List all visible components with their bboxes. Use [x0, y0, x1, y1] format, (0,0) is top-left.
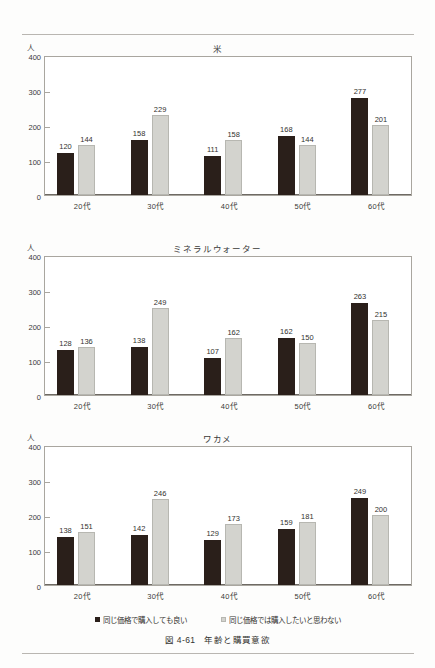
bar-value-label: 142 [133, 524, 146, 533]
x-category-label: 50代 [266, 400, 340, 411]
bar-value-label: 229 [154, 105, 167, 114]
bar-value-label: 246 [154, 489, 167, 498]
y-tick-label: 100 [28, 358, 41, 367]
bar-series-light: 151 [78, 532, 95, 585]
x-category-label: 50代 [266, 200, 340, 211]
bar-series-dark: 142 [131, 535, 148, 585]
bar-value-label: 215 [375, 310, 388, 319]
legend-label-1: 同じ価格では購入したいと思わない [229, 614, 341, 625]
chart-title: ワカメ [0, 432, 435, 444]
bar-group: 11115840代 [192, 57, 266, 195]
x-category-label: 30代 [119, 200, 193, 211]
bar-value-label: 151 [80, 522, 93, 531]
bar-series-dark: 128 [57, 350, 74, 395]
bar-group: 16215050代 [266, 257, 340, 395]
y-tick-label: 200 [28, 323, 41, 332]
bar-value-label: 200 [375, 505, 388, 514]
bar-value-label: 128 [59, 339, 72, 348]
bar-series-dark: 138 [57, 537, 74, 585]
bar-value-label: 249 [354, 487, 367, 496]
y-tick-label: 300 [28, 288, 41, 297]
bar-group: 14224630代 [119, 447, 193, 585]
plot-area: 010020030040012014420代15822930代11115840代… [44, 56, 412, 196]
x-category-label: 40代 [192, 200, 266, 211]
bar-value-label: 111 [207, 145, 218, 154]
plot-area: 010020030040013815120代14224630代12917340代… [44, 446, 412, 586]
figure-caption-number: 図 4-61 [165, 635, 196, 645]
bar-group: 10716240代 [192, 257, 266, 395]
bar-value-label: 201 [375, 115, 388, 124]
bar-series-dark: 277 [351, 98, 368, 195]
bar-series-light: 249 [152, 308, 169, 395]
bars-layer: 12014420代15822930代11115840代16814450代2772… [45, 57, 411, 195]
y-tick-label: 0 [37, 193, 41, 202]
bar-series-dark: 159 [278, 529, 295, 585]
bar-value-label: 158 [227, 130, 240, 139]
y-tick-label: 100 [28, 158, 41, 167]
bar-group: 16814450代 [266, 57, 340, 195]
x-category-label: 20代 [45, 200, 119, 211]
bar-series-dark: 111 [204, 156, 221, 195]
bar-series-light: 173 [225, 524, 242, 585]
y-tick-label: 0 [37, 583, 41, 592]
bar-group: 26321560代 [339, 257, 413, 395]
bar-series-light: 162 [225, 338, 242, 395]
y-tick-label: 0 [37, 393, 41, 402]
x-category-label: 30代 [119, 400, 193, 411]
bar-group: 12917340代 [192, 447, 266, 585]
bar-series-dark: 120 [57, 153, 74, 195]
legend-item-1: 同じ価格では購入したいと思わない [221, 614, 341, 625]
bar-series-light: 181 [299, 522, 316, 585]
bar-group: 15918150代 [266, 447, 340, 585]
bar-value-label: 138 [59, 526, 72, 535]
bar-value-label: 162 [280, 327, 293, 336]
figure-caption-title: 年齢と購買意欲 [204, 635, 270, 645]
bar-value-label: 181 [301, 512, 314, 521]
chart-title: ミネラルウォーター [0, 242, 435, 254]
x-category-label: 50代 [266, 590, 340, 601]
bar-series-dark: 249 [351, 498, 368, 585]
bar-series-dark: 158 [131, 140, 148, 195]
bar-value-label: 158 [133, 129, 146, 138]
bar-series-light: 246 [152, 499, 169, 585]
y-tick-label: 400 [28, 253, 41, 262]
page-rule-bottom [22, 653, 414, 654]
bar-series-dark: 138 [131, 347, 148, 395]
x-category-label: 60代 [339, 200, 413, 211]
legend-item-0: 同じ価格で購入しても良い [95, 614, 187, 625]
y-tick-label: 400 [28, 53, 41, 62]
x-category-label: 60代 [339, 400, 413, 411]
bars-layer: 13815120代14224630代12917340代15918150代2492… [45, 447, 411, 585]
y-tick-label: 200 [28, 513, 41, 522]
y-tick-label: 100 [28, 548, 41, 557]
bar-value-label: 144 [80, 135, 93, 144]
bar-value-label: 138 [133, 336, 146, 345]
bar-value-label: 263 [354, 292, 367, 301]
bar-group: 12813620代 [45, 257, 119, 395]
bar-series-dark: 162 [278, 338, 295, 395]
bar-group: 13815120代 [45, 447, 119, 585]
plot-area: 010020030040012813620代13824930代10716240代… [44, 256, 412, 396]
bar-value-label: 168 [280, 125, 293, 134]
y-tick-label: 300 [28, 88, 41, 97]
figure-page: 人米010020030040012014420代15822930代1111584… [0, 0, 435, 668]
bar-group: 12014420代 [45, 57, 119, 195]
x-category-label: 40代 [192, 400, 266, 411]
y-tick-label: 200 [28, 123, 41, 132]
bar-group: 13824930代 [119, 257, 193, 395]
chart-legend: 同じ価格で購入しても良い 同じ価格では購入したいと思わない [0, 614, 435, 625]
square-light-icon [221, 617, 226, 622]
y-tick-label: 400 [28, 443, 41, 452]
bar-series-light: 215 [372, 320, 389, 395]
bar-value-label: 173 [227, 514, 240, 523]
x-category-label: 20代 [45, 400, 119, 411]
figure-caption: 図 4-61年齢と購買意欲 [0, 633, 435, 645]
bar-series-light: 200 [372, 515, 389, 585]
bar-series-dark: 168 [278, 136, 295, 195]
bar-series-dark: 107 [204, 358, 221, 395]
square-dark-icon [95, 617, 100, 622]
bar-value-label: 159 [280, 518, 293, 527]
bar-series-light: 229 [152, 115, 169, 195]
bar-series-light: 144 [78, 145, 95, 195]
bar-series-dark: 263 [351, 303, 368, 395]
